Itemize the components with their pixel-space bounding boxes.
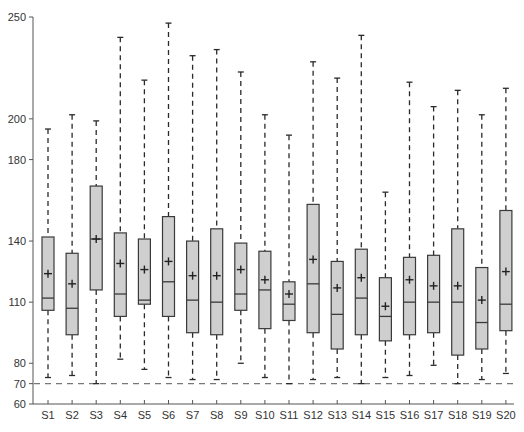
box-plot-chart: 607080110140180200250 S1S2S3S4S5S6S7S8S9…	[0, 0, 524, 432]
iqr-box	[66, 253, 78, 334]
x-tick-label: S13	[327, 409, 347, 421]
iqr-box	[211, 229, 223, 335]
box-s9	[235, 72, 247, 363]
box-s1	[42, 129, 54, 377]
x-tick-label: S2	[65, 409, 78, 421]
box-s16	[404, 82, 416, 375]
x-tick-label: S17	[424, 409, 444, 421]
box-s8	[211, 50, 223, 380]
box-s12	[307, 62, 319, 380]
y-tick-label: 250	[8, 11, 26, 23]
box-s17	[428, 107, 440, 366]
x-tick-label: S6	[162, 409, 175, 421]
iqr-box	[187, 241, 199, 333]
box-s4	[114, 37, 126, 359]
iqr-box	[235, 243, 247, 310]
iqr-box	[428, 255, 440, 332]
iqr-box	[307, 204, 319, 332]
y-tick-label: 80	[14, 357, 26, 369]
box-s10	[259, 115, 271, 378]
box-s11	[283, 135, 295, 383]
x-tick-label: S5	[138, 409, 151, 421]
x-tick-label: S19	[472, 409, 492, 421]
box-s3	[90, 121, 102, 384]
iqr-box	[476, 268, 488, 349]
y-tick-label: 140	[8, 235, 26, 247]
x-tick-label: S16	[400, 409, 420, 421]
box-s2	[66, 115, 78, 376]
box-s14	[355, 35, 367, 383]
x-tick-label: S20	[496, 409, 516, 421]
box-s20	[500, 88, 512, 373]
boxes	[42, 23, 512, 384]
x-tick-label: S1	[41, 409, 54, 421]
x-tick-label: S9	[234, 409, 247, 421]
axes	[33, 17, 514, 404]
iqr-box	[452, 229, 464, 355]
iqr-box	[163, 217, 175, 317]
x-tick-label: S8	[210, 409, 223, 421]
y-tick-label: 200	[8, 113, 26, 125]
iqr-box	[331, 261, 343, 349]
box-s6	[163, 23, 175, 377]
y-tick-label: 110	[8, 296, 26, 308]
box-s13	[331, 78, 343, 377]
x-tick-label: S7	[186, 409, 199, 421]
y-tick-label: 180	[8, 154, 26, 166]
box-s7	[187, 56, 199, 380]
x-tick-label: S12	[303, 409, 323, 421]
x-tick-label: S15	[376, 409, 396, 421]
iqr-box	[114, 233, 126, 317]
x-tick-label: S4	[114, 409, 127, 421]
box-s19	[476, 115, 488, 380]
y-tick-label: 60	[14, 398, 26, 410]
box-s5	[138, 80, 150, 369]
box-s15	[379, 192, 391, 377]
iqr-box	[283, 282, 295, 321]
x-tick-label: S3	[89, 409, 102, 421]
iqr-box	[355, 249, 367, 335]
y-ticks: 607080110140180200250	[8, 11, 33, 410]
x-tick-label: S10	[255, 409, 275, 421]
y-tick-label: 70	[14, 378, 26, 390]
iqr-box	[404, 257, 416, 334]
x-tick-label: S11	[280, 409, 299, 421]
x-tick-label: S18	[448, 409, 468, 421]
x-ticks: S1S2S3S4S5S6S7S8S9S10S11S12S13S14S15S16S…	[41, 400, 515, 421]
x-tick-label: S14	[352, 409, 372, 421]
box-s18	[452, 90, 464, 383]
